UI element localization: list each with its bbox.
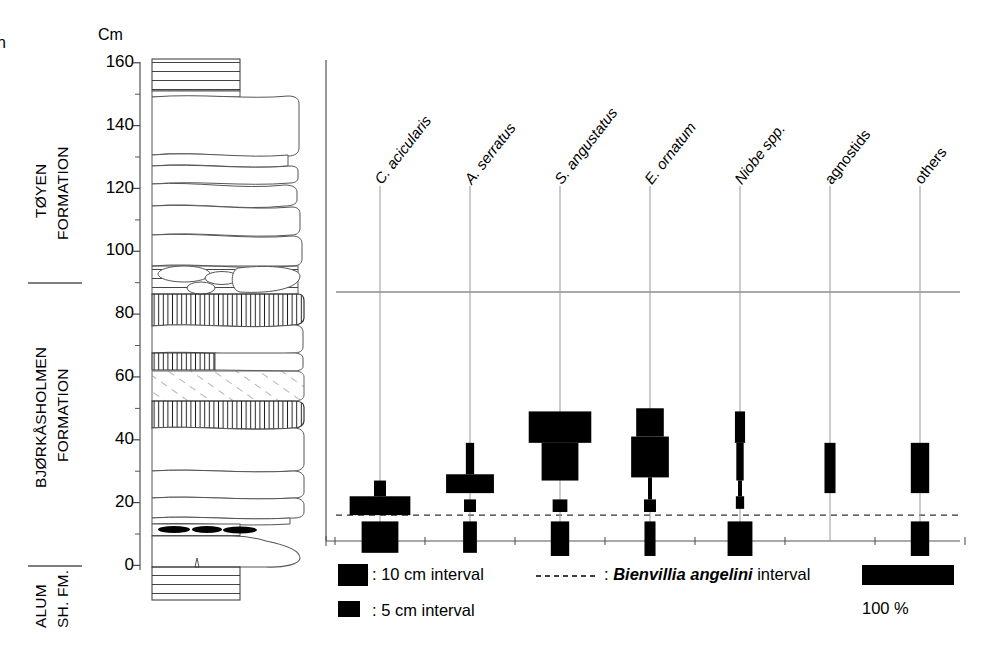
chart-column-7 bbox=[911, 186, 929, 556]
legend-taxon-name: Bienvillia angelini bbox=[613, 565, 752, 583]
abundance-bar bbox=[824, 443, 835, 493]
figure-root: n TØYEN FORMATION BJØRKÅSHOLMEN FORMATIO… bbox=[0, 0, 983, 646]
legend-scale-label: 100 % bbox=[862, 599, 909, 618]
abundance-bar bbox=[446, 474, 494, 493]
abundance-bar bbox=[464, 499, 476, 512]
abundance-bar bbox=[738, 481, 742, 497]
legend-text-10cm: : 10 cm interval bbox=[372, 565, 484, 584]
abundance-bar bbox=[553, 499, 568, 512]
abundance-bar bbox=[735, 411, 745, 442]
abundance-bar bbox=[648, 477, 652, 499]
abundance-bar bbox=[374, 481, 386, 497]
abundance-bar bbox=[463, 521, 477, 552]
abundance-bar bbox=[728, 521, 753, 556]
abundance-bar bbox=[631, 437, 669, 478]
abundance-bar bbox=[529, 411, 592, 442]
chart-column-1 bbox=[350, 186, 411, 553]
legend-swatch-10cm bbox=[338, 564, 368, 586]
abundance-bar bbox=[644, 499, 656, 512]
abundance-bar bbox=[636, 408, 664, 436]
legend-swatch-5cm bbox=[338, 601, 360, 617]
legend-interval-suffix: interval bbox=[753, 565, 811, 583]
legend-colon-prefix: : bbox=[604, 565, 613, 583]
legend-scale-bar bbox=[862, 565, 954, 585]
chart-column-6 bbox=[824, 186, 835, 541]
abundance-bar bbox=[736, 443, 743, 481]
abundance-bar bbox=[736, 496, 744, 509]
abundance-bar bbox=[466, 443, 474, 474]
abundance-bar bbox=[551, 521, 569, 556]
legend-text-5cm: : 5 cm interval bbox=[372, 601, 475, 620]
abundance-bar bbox=[644, 521, 655, 556]
abundance-bar bbox=[911, 443, 929, 493]
abundance-chart bbox=[0, 0, 983, 646]
chart-column-3 bbox=[529, 186, 592, 556]
chart-column-2 bbox=[446, 186, 494, 553]
chart-column-5 bbox=[728, 186, 753, 556]
abundance-bar bbox=[542, 443, 579, 481]
legend-text-bienvillia-interval: : Bienvillia angelini interval bbox=[604, 565, 810, 584]
abundance-bar bbox=[350, 496, 411, 515]
abundance-bar bbox=[911, 521, 929, 556]
abundance-bar bbox=[362, 521, 399, 552]
chart-column-4 bbox=[631, 186, 669, 556]
